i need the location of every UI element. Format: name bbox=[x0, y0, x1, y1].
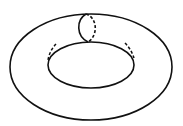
inner-hole-boundary bbox=[48, 42, 134, 88]
meridian-loop-front bbox=[79, 14, 88, 42]
torus-diagram bbox=[0, 0, 183, 126]
outer-boundary bbox=[10, 14, 172, 120]
meridian-loop-back bbox=[86, 14, 95, 42]
